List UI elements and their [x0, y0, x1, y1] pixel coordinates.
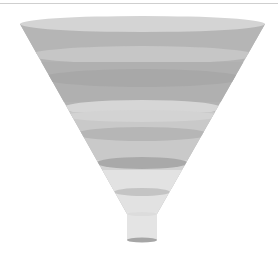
funnel-diagram: [0, 0, 278, 256]
funnel-body: [0, 20, 278, 220]
funnel-top-rim: [20, 16, 265, 32]
funnel-neck: [127, 212, 157, 240]
funnel-neck-bottom: [127, 238, 157, 243]
